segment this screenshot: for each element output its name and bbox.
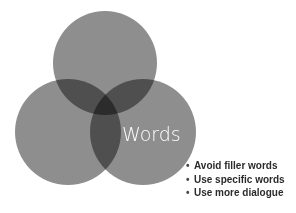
bullet-item: •Use specific words [186,173,285,187]
bullet-text: Use more dialogue [194,187,283,198]
bullet-dot-icon: • [186,173,194,187]
bullet-list: •Avoid filler words •Use specific words … [186,159,285,200]
bullet-item: •Avoid filler words [186,159,285,173]
bullet-text: Avoid filler words [194,160,278,171]
bullet-text: Use specific words [194,174,285,185]
center-label: Words [122,122,181,146]
venn-diagram: Words •Avoid filler words •Use specific … [0,0,296,213]
bullet-dot-icon: • [186,159,194,173]
bullet-item: •Use more dialogue [186,186,285,200]
bullet-dot-icon: • [186,186,194,200]
